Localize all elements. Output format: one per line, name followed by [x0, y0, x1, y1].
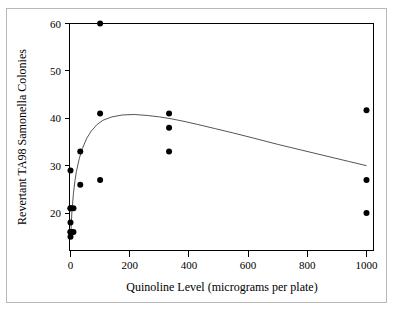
data-point — [77, 148, 83, 154]
y-axis-tick-labels: 60 50 40 30 20 — [50, 18, 62, 220]
data-point — [97, 177, 103, 183]
data-point — [77, 182, 83, 188]
plot-area: 60 50 40 30 20 0 200 400 600 8 — [0, 0, 394, 314]
y-tick-label-20: 20 — [50, 207, 62, 219]
data-point — [166, 111, 172, 117]
x-tick-label-0: 0 — [68, 259, 74, 271]
y-tick-label-40: 40 — [50, 112, 62, 124]
data-point — [166, 148, 172, 154]
x-tick-label-400: 400 — [181, 259, 198, 271]
x-tick-label-600: 600 — [240, 259, 257, 271]
scatter-chart: 60 50 40 30 20 0 200 400 600 8 — [0, 0, 394, 314]
y-axis-ticks — [65, 24, 70, 214]
y-tick-label-60: 60 — [50, 18, 62, 30]
y-tick-label-30: 30 — [50, 160, 62, 172]
x-axis-ticks — [71, 251, 367, 257]
data-point — [97, 21, 103, 27]
data-point — [97, 111, 103, 117]
y-axis-title: Revertant TA98 Samonella Colonies — [15, 49, 29, 225]
fitted-curve — [71, 115, 367, 239]
data-point — [166, 125, 172, 131]
data-point — [68, 167, 74, 173]
x-axis-title: Quinoline Level (micrograms per plate) — [126, 280, 317, 294]
x-axis-tick-labels: 0 200 400 600 800 1000 — [68, 259, 378, 271]
data-points-group — [68, 21, 370, 240]
y-tick-label-50: 50 — [50, 65, 62, 77]
axis-frame — [70, 24, 374, 251]
figure-container: 60 50 40 30 20 0 200 400 600 8 — [0, 0, 394, 314]
data-point — [68, 220, 74, 226]
data-point — [364, 107, 370, 113]
x-tick-label-1000: 1000 — [356, 259, 379, 271]
data-point — [364, 210, 370, 216]
data-point — [70, 205, 76, 211]
data-point — [70, 229, 76, 235]
data-point — [364, 177, 370, 183]
x-tick-label-200: 200 — [121, 259, 138, 271]
x-tick-label-800: 800 — [299, 259, 316, 271]
